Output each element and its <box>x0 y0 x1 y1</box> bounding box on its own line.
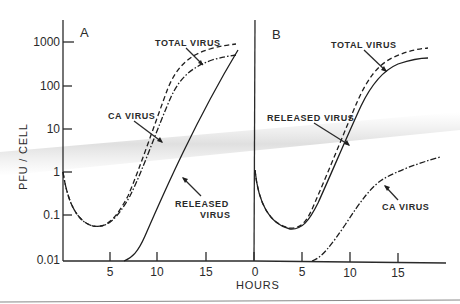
panel-b-ca-virus-label: CA VIRUS <box>382 202 429 212</box>
panel-b-x-tick-15: 15 <box>391 266 405 280</box>
panel-a-x-tick-5: 5 <box>107 265 114 279</box>
figure: PFU / CELL 1000 100 10 1 0.1 0.01 5 10 1… <box>0 0 460 304</box>
panel-b-x-tick-5: 5 <box>299 265 306 279</box>
panel-b-y-axis <box>254 20 255 261</box>
panel-a-x-tick-10: 10 <box>150 265 164 279</box>
panel-a-label: A <box>80 25 89 40</box>
panel-a-released-label-line2: VIRUS <box>200 210 231 220</box>
panel-a-released-label-line1: RELEASED <box>175 199 229 209</box>
y-tick-0.01: 0.01 <box>37 253 61 267</box>
panel-b-x-tick-0: 0 <box>252 265 259 279</box>
panel-a-x-tick-15: 15 <box>199 265 213 279</box>
panel-a-ca-virus-label: CA VIRUS <box>108 111 155 121</box>
scan-glare <box>0 112 460 176</box>
y-tick-1000: 1000 <box>33 35 60 49</box>
panel-b: 0 5 10 15 HOURS B TOTAL VIRUS RELEASED V… <box>236 20 446 291</box>
y-tick-100: 100 <box>40 79 60 93</box>
y-tick-1: 1 <box>53 165 60 179</box>
panel-b-released-virus-label: RELEASED VIRUS <box>267 113 354 123</box>
y-axis-title: PFU / CELL <box>17 123 29 190</box>
y-tick-0.1: 0.1 <box>43 208 60 222</box>
panel-b-label: B <box>272 27 281 42</box>
y-tick-10: 10 <box>47 122 61 136</box>
panel-b-total-virus-label: TOTAL VIRUS <box>331 40 397 50</box>
panel-b-x-tick-10: 10 <box>343 266 357 280</box>
x-axis-title: HOURS <box>236 279 280 291</box>
scan-bottom-edge <box>0 300 460 302</box>
panel-a-total-virus-label: TOTAL VIRUS <box>155 38 221 48</box>
